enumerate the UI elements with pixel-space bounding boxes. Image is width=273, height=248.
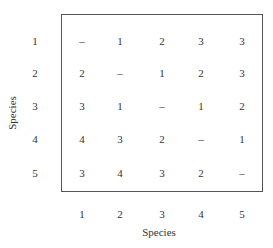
matrix-cell: 3 xyxy=(159,167,165,179)
matrix-cell: 3 xyxy=(79,167,85,179)
col-label: 3 xyxy=(159,208,165,220)
col-label: 5 xyxy=(239,208,245,220)
x-axis-label: Species xyxy=(142,226,176,238)
matrix-cell: 3 xyxy=(79,100,85,112)
row-label: 2 xyxy=(32,67,38,79)
matrix-cell: 3 xyxy=(239,35,245,47)
col-label: 2 xyxy=(117,208,123,220)
y-axis-label: Species xyxy=(6,96,18,130)
matrix-cell: 1 xyxy=(159,67,165,79)
matrix-cell: 2 xyxy=(198,67,204,79)
matrix-cell: – xyxy=(79,35,85,47)
matrix-cell: – xyxy=(198,133,204,145)
matrix-cell: 1 xyxy=(117,100,123,112)
matrix-cell: 3 xyxy=(198,35,204,47)
matrix-cell: 2 xyxy=(159,133,165,145)
matrix-cell: 3 xyxy=(239,67,245,79)
matrix-cell: 3 xyxy=(117,133,123,145)
matrix-cell: – xyxy=(117,67,123,79)
matrix-cell: 1 xyxy=(117,35,123,47)
matrix-cell: 2 xyxy=(79,67,85,79)
row-label: 1 xyxy=(32,35,38,47)
matrix-cell: 1 xyxy=(198,100,204,112)
matrix-cell: 4 xyxy=(79,133,85,145)
row-label: 5 xyxy=(32,167,38,179)
matrix-cell: – xyxy=(159,100,165,112)
matrix-cell: 2 xyxy=(159,35,165,47)
matrix-cell: 4 xyxy=(117,167,123,179)
col-label: 1 xyxy=(79,208,85,220)
row-label: 3 xyxy=(32,100,38,112)
matrix-cell: – xyxy=(239,167,245,179)
matrix-cell: 2 xyxy=(239,100,245,112)
matrix-cell: 1 xyxy=(239,133,245,145)
col-label: 4 xyxy=(198,208,204,220)
matrix-cell: 2 xyxy=(198,167,204,179)
row-label: 4 xyxy=(32,133,38,145)
